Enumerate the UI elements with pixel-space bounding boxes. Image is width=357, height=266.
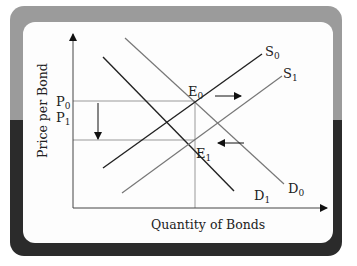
equilibrium-label-e0: E0 [188, 84, 204, 101]
x-axis-label: Quantity of Bonds [151, 217, 265, 232]
curve-label-d1: D1 [254, 188, 270, 205]
equilibrium-label-e1: E1 [196, 146, 211, 163]
demand-curve-d0 [125, 38, 284, 184]
curve-label-s0: S0 [265, 44, 280, 61]
demand-curve-d1 [103, 57, 234, 191]
curve-label-s1: S1 [283, 66, 298, 83]
curve-label-d0: D0 [288, 181, 304, 198]
price-label-p0: P0 [56, 94, 71, 111]
y-axis-label: Price per Bond [35, 63, 50, 158]
bond-market-diagram: Price per Bond Quantity of Bonds P0 P1 S… [0, 0, 357, 266]
price-label-p1: P1 [56, 110, 70, 127]
supply-curve-s0 [103, 54, 262, 168]
